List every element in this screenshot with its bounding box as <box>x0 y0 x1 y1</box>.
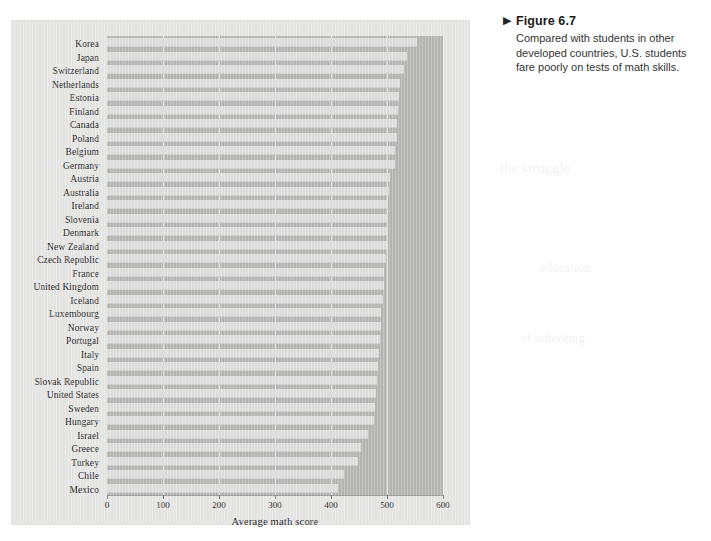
bar-row <box>107 227 443 236</box>
category-label: United Kingdom <box>0 282 99 292</box>
category-label: Slovenia <box>0 215 99 225</box>
bar <box>107 484 338 493</box>
x-tick-label-400: 400 <box>324 500 338 510</box>
category-label: Slovak Republic <box>0 377 99 387</box>
bar <box>107 470 344 479</box>
bar <box>107 106 398 115</box>
bar <box>107 349 379 358</box>
category-label: Finland <box>0 107 99 117</box>
category-label: Poland <box>0 134 99 144</box>
bar-row <box>107 322 443 331</box>
figure-panel: KoreaJapanSwitzerlandNetherlandsEstoniaF… <box>11 20 470 525</box>
category-label: Estonia <box>0 93 99 103</box>
category-label: Israel <box>0 431 99 441</box>
x-tick-mark-100 <box>163 495 164 499</box>
bar <box>107 281 384 290</box>
category-label: Portugal <box>0 336 99 346</box>
category-label: Germany <box>0 161 99 171</box>
bar-row <box>107 416 443 425</box>
bar-row <box>107 133 443 142</box>
bar-row <box>107 470 443 479</box>
bar-row <box>107 214 443 223</box>
category-axis: KoreaJapanSwitzerlandNetherlandsEstoniaF… <box>11 36 103 495</box>
bar-row <box>107 92 443 101</box>
bar <box>107 92 399 101</box>
bar-row <box>107 52 443 61</box>
x-tick-mark-500 <box>387 495 388 499</box>
category-label: France <box>0 269 99 279</box>
x-tick-mark-200 <box>219 495 220 499</box>
category-label: Korea <box>0 39 99 49</box>
category-label: Czech Republic <box>0 255 99 265</box>
bar <box>107 227 387 236</box>
bar <box>107 241 387 250</box>
category-label: Belgium <box>0 147 99 157</box>
category-label: Switzerland <box>0 66 99 76</box>
bar-row <box>107 484 443 493</box>
x-tick-label-200: 200 <box>212 500 226 510</box>
x-axis-title: Average math score <box>107 516 443 527</box>
bar <box>107 457 358 466</box>
bar-row <box>107 65 443 74</box>
category-label: Denmark <box>0 228 99 238</box>
bar <box>107 443 361 452</box>
bar-row <box>107 376 443 385</box>
bar-row <box>107 146 443 155</box>
figure-caption: ▶ Figure 6.7 Compared with students in o… <box>503 14 703 75</box>
bar <box>107 65 404 74</box>
bar-row <box>107 443 443 452</box>
page-showthrough-3: of schooling <box>520 330 585 346</box>
category-label: Netherlands <box>0 80 99 90</box>
page-showthrough-2: education <box>540 260 591 276</box>
category-label: Hungary <box>0 417 99 427</box>
bar <box>107 160 395 169</box>
bar <box>107 133 397 142</box>
category-label: Turkey <box>0 458 99 468</box>
bar-row <box>107 389 443 398</box>
bar <box>107 52 407 61</box>
bar-row <box>107 119 443 128</box>
category-label: Chile <box>0 471 99 481</box>
bar-row <box>107 254 443 263</box>
category-label: Canada <box>0 120 99 130</box>
bar-row <box>107 106 443 115</box>
bar-row <box>107 362 443 371</box>
bar <box>107 79 400 88</box>
page-showthrough-1: the struggle <box>500 160 570 177</box>
bar <box>107 389 376 398</box>
bar-row <box>107 241 443 250</box>
x-tick-mark-400 <box>331 495 332 499</box>
bar-row <box>107 430 443 439</box>
bar-row <box>107 38 443 47</box>
bar-row <box>107 403 443 412</box>
bar-row <box>107 187 443 196</box>
bar <box>107 119 397 128</box>
bar <box>107 214 388 223</box>
bar-row <box>107 173 443 182</box>
x-tick-mark-300 <box>275 495 276 499</box>
bar <box>107 295 383 304</box>
bar <box>107 430 368 439</box>
bar <box>107 376 377 385</box>
category-label: New Zealand <box>0 242 99 252</box>
bar <box>107 146 395 155</box>
bar <box>107 308 381 317</box>
x-tick-label-300: 300 <box>268 500 282 510</box>
category-label: Italy <box>0 350 99 360</box>
bar <box>107 173 390 182</box>
bar-row <box>107 295 443 304</box>
bar-row <box>107 349 443 358</box>
bar-row <box>107 281 443 290</box>
x-tick-label-600: 600 <box>436 500 450 510</box>
category-label: Mexico <box>0 485 99 495</box>
bar <box>107 254 386 263</box>
caption-marker-icon: ▶ <box>503 15 511 26</box>
category-label: Spain <box>0 363 99 373</box>
bar <box>107 416 374 425</box>
figure-caption-text: Compared with students in other develope… <box>516 31 703 75</box>
category-label: Sweden <box>0 404 99 414</box>
x-tick-label-0: 0 <box>105 500 110 510</box>
bar <box>107 38 417 47</box>
category-label: Austria <box>0 174 99 184</box>
bar-row <box>107 268 443 277</box>
